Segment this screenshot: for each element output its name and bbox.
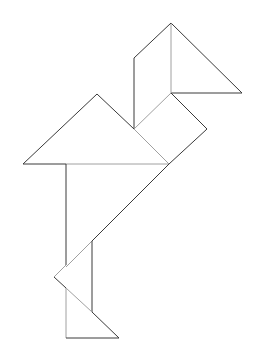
- wing-triangle: [23, 94, 169, 164]
- tangram-figure: [0, 0, 261, 358]
- neck-parallelogram: [134, 23, 171, 129]
- head-triangle: [171, 23, 242, 93]
- body-large-triangle: [66, 164, 169, 267]
- body-square: [134, 93, 207, 164]
- leg-triangle: [54, 241, 92, 312]
